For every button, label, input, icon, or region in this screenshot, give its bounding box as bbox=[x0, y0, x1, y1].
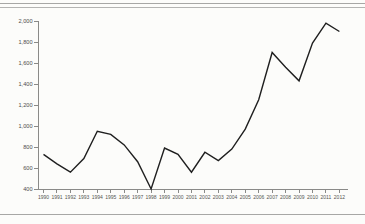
axes bbox=[38, 21, 348, 189]
x-axis-labels: 1990199119921993199419951996199719981999… bbox=[38, 194, 345, 200]
y-tick-label: 400 bbox=[23, 186, 32, 192]
x-tick-label: 1991 bbox=[51, 194, 62, 200]
x-tick-label: 2008 bbox=[280, 194, 291, 200]
x-tick-label: 2000 bbox=[172, 194, 183, 200]
x-tick-label: 1992 bbox=[65, 194, 76, 200]
x-tick-label: 1997 bbox=[132, 194, 143, 200]
x-tick-label: 2006 bbox=[253, 194, 264, 200]
x-tick-label: 2011 bbox=[321, 194, 332, 200]
y-tick-label: 800 bbox=[23, 144, 32, 150]
y-axis-ticks bbox=[34, 21, 38, 189]
y-tick-label: 600 bbox=[23, 165, 32, 171]
x-tick-label: 1990 bbox=[38, 194, 49, 200]
x-tick-label: 1995 bbox=[105, 194, 116, 200]
x-tick-label: 1996 bbox=[119, 194, 130, 200]
y-tick-label: 1,600 bbox=[19, 60, 33, 66]
x-tick-label: 1994 bbox=[92, 194, 103, 200]
x-tick-label: 2003 bbox=[213, 194, 224, 200]
data-series bbox=[44, 23, 340, 189]
x-axis-ticks bbox=[44, 189, 340, 193]
y-tick-label: 1,000 bbox=[19, 123, 33, 129]
x-tick-label: 2010 bbox=[307, 194, 318, 200]
axis-lines bbox=[38, 21, 348, 189]
x-tick-label: 2004 bbox=[226, 194, 237, 200]
x-tick-label: 1993 bbox=[78, 194, 89, 200]
x-tick-label: 2001 bbox=[186, 194, 197, 200]
x-tick-label: 2009 bbox=[293, 194, 304, 200]
line-chart: 4006008001,0001,2001,4001,6001,8002,000 … bbox=[0, 0, 365, 224]
series-line bbox=[44, 23, 340, 189]
x-tick-label: 2005 bbox=[240, 194, 251, 200]
y-axis-labels: 4006008001,0001,2001,4001,6001,8002,000 bbox=[19, 18, 33, 192]
y-tick-label: 1,200 bbox=[19, 102, 33, 108]
x-tick-label: 2002 bbox=[199, 194, 210, 200]
x-tick-label: 2012 bbox=[334, 194, 345, 200]
x-tick-label: 1999 bbox=[159, 194, 170, 200]
line-chart-svg: 4006008001,0001,2001,4001,6001,8002,000 … bbox=[0, 0, 365, 224]
document-page: 4006008001,0001,2001,4001,6001,8002,000 … bbox=[0, 0, 365, 224]
y-tick-label: 1,400 bbox=[19, 81, 33, 87]
x-tick-label: 1998 bbox=[146, 194, 157, 200]
x-tick-label: 2007 bbox=[267, 194, 278, 200]
y-tick-label: 1,800 bbox=[19, 39, 33, 45]
bottom-rule bbox=[0, 214, 365, 215]
y-tick-label: 2,000 bbox=[19, 18, 33, 24]
